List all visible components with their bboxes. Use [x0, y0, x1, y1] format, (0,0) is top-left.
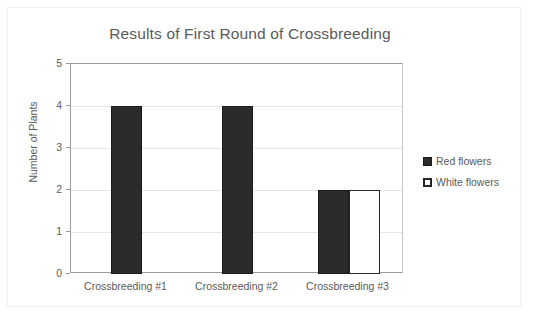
y-tick-label: 4 — [38, 100, 62, 111]
legend-item-red-flowers[interactable]: Red flowers — [423, 155, 523, 167]
y-tick-label: 3 — [38, 142, 62, 153]
bar-red-flowers-cat2 — [222, 106, 253, 274]
hollow-square-icon — [423, 178, 432, 187]
plot-area — [70, 63, 403, 273]
chart-screenshot: Results of First Round of Crossbreeding … — [0, 0, 536, 323]
filled-square-icon — [423, 157, 432, 166]
y-tick-label: 0 — [38, 268, 62, 279]
x-category-label-3: Crossbreeding #3 — [293, 280, 403, 292]
y-tick-label: 5 — [38, 58, 62, 69]
legend-label: White flowers — [436, 176, 499, 188]
y-tick-mark — [66, 273, 70, 274]
bar-white-flowers-cat3 — [349, 190, 380, 274]
legend-item-white-flowers[interactable]: White flowers — [423, 176, 523, 188]
x-category-label-2: Crossbreeding #2 — [182, 280, 292, 292]
chart-legend: Red flowersWhite flowers — [423, 155, 523, 197]
y-tick-label: 1 — [38, 226, 62, 237]
bar-red-flowers-cat3 — [318, 190, 349, 274]
legend-label: Red flowers — [436, 155, 491, 167]
y-tick-label: 2 — [38, 184, 62, 195]
x-category-label-1: Crossbreeding #1 — [71, 280, 181, 292]
chart-title: Results of First Round of Crossbreeding — [40, 25, 460, 43]
bar-red-flowers-cat1 — [111, 106, 142, 274]
